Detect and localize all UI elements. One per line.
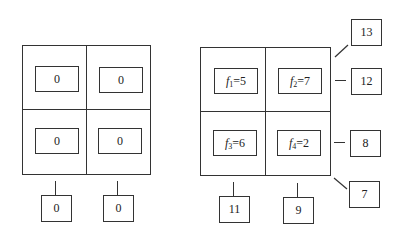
diagonal-top-sum: 13	[361, 25, 373, 40]
diagonal-connectors	[0, 0, 395, 234]
diagonal-top-connector	[335, 45, 348, 57]
diagonal-bottom-sum-box: 7	[349, 181, 380, 208]
diagonal-bottom-connector	[334, 178, 347, 189]
diagonal-bottom-sum: 7	[362, 187, 368, 202]
diagonal-top-sum-box: 13	[351, 19, 382, 46]
